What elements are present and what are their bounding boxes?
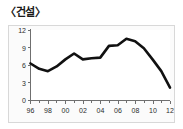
x-tick-label: 12 [166, 107, 174, 114]
plot-area-background [30, 30, 170, 100]
line-chart: 12 9 6 3 0 [8, 25, 175, 123]
x-tick-label: 04 [97, 107, 105, 114]
y-tick-label: 0 [22, 97, 26, 104]
x-tick-label: 10 [149, 107, 157, 114]
y-axis-tick-labels: 12 9 6 3 0 [18, 27, 26, 104]
x-tick-label: 00 [62, 107, 70, 114]
x-tick-label: 08 [132, 107, 140, 114]
x-tick-label: 06 [114, 107, 122, 114]
x-tick-label: 96 [27, 107, 35, 114]
y-tick-label: 9 [22, 45, 26, 52]
y-tick-label: 3 [22, 80, 26, 87]
y-tick-label: 12 [18, 27, 26, 34]
x-tick-label: 98 [44, 107, 52, 114]
chart-figure: 〈건설〉 12 9 6 3 0 [0, 0, 183, 129]
y-tick-label: 6 [22, 62, 26, 69]
chart-title: 〈건설〉 [5, 6, 46, 19]
x-tick-label: 02 [79, 107, 87, 114]
x-axis-tick-labels: 96 98 00 02 04 06 08 10 12 [27, 107, 174, 114]
